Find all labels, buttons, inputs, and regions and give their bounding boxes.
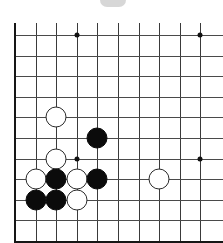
grid-line-horizontal-3 (15, 97, 223, 98)
stone-white-c3-r7[interactable] (66, 169, 87, 190)
star-point-0 (74, 33, 79, 38)
stone-white-c2-r6[interactable] (46, 148, 67, 169)
star-point-2 (74, 156, 79, 161)
grid-line-horizontal-9 (15, 220, 223, 221)
stone-white-c7-r7[interactable] (149, 169, 170, 190)
go-board[interactable] (0, 0, 223, 243)
board-edge-left (14, 23, 16, 243)
grid-line-horizontal-0 (15, 35, 223, 36)
grid-line-horizontal-5 (15, 138, 223, 139)
grid-line-horizontal-1 (15, 56, 223, 57)
stone-black-c4-r5[interactable] (87, 128, 108, 149)
stone-black-c2-r8[interactable] (46, 189, 67, 210)
stone-white-c3-r8[interactable] (66, 189, 87, 210)
star-point-1 (198, 33, 203, 38)
stone-black-c4-r7[interactable] (87, 169, 108, 190)
stone-white-c1-r7[interactable] (25, 169, 46, 190)
star-point-3 (198, 156, 203, 161)
go-diagram-screenshot (0, 0, 223, 243)
stone-black-c2-r7[interactable] (46, 169, 67, 190)
stone-white-c2-r4[interactable] (46, 107, 67, 128)
stone-black-c1-r8[interactable] (25, 189, 46, 210)
grid-line-horizontal-2 (15, 76, 223, 77)
